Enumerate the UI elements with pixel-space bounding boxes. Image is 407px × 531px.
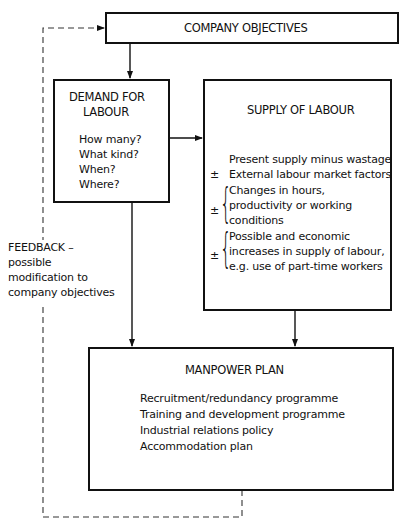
plus-minus-sign: ± <box>210 168 219 181</box>
demand-question: When? <box>79 162 115 177</box>
manpower-plan-item: Industrial relations policy <box>140 423 273 438</box>
manpower-plan-item: Accommodation plan <box>140 439 253 454</box>
manpower-plan-item: Training and development programme <box>140 407 345 422</box>
feedback-label: FEEDBACK – possible modification to comp… <box>8 240 128 306</box>
supply-line-present: Present supply minus wastage <box>229 152 391 167</box>
feedback-line: modification to <box>8 270 88 285</box>
company-objectives-title: COMPANY OBJECTIVES <box>184 21 307 36</box>
demand-question: Where? <box>79 177 119 192</box>
manpower-plan-title: MANPOWER PLAN <box>185 363 284 378</box>
company-objectives-box: COMPANY OBJECTIVES <box>105 12 399 44</box>
plus-minus-sign: ± <box>210 249 219 262</box>
plus-minus-sign: ± <box>210 204 219 217</box>
manpower-plan-box: MANPOWER PLAN Recruitment/redundancy pro… <box>88 347 394 491</box>
supply-title: SUPPLY OF LABOUR <box>247 103 354 118</box>
demand-question: What kind? <box>79 147 139 162</box>
feedback-line: company objectives <box>8 285 115 300</box>
demand-title-line1: DEMAND FOR <box>69 90 145 105</box>
supply-line-external: External labour market factors <box>229 167 391 182</box>
demand-question: How many? <box>79 132 141 147</box>
supply-line-changes: conditions <box>229 213 284 228</box>
demand-title-line2: LABOUR <box>83 105 129 120</box>
supply-line-changes: Changes in hours, <box>229 183 325 198</box>
feedback-line: possible <box>8 255 51 270</box>
manpower-plan-item: Recruitment/redundancy programme <box>140 391 338 406</box>
feedback-line: FEEDBACK – <box>8 240 73 255</box>
supply-line-possible: e.g. use of part-time workers <box>229 259 383 274</box>
supply-line-possible: increases in supply of labour, <box>229 244 384 259</box>
supply-of-labour-box: SUPPLY OF LABOUR Present supply minus wa… <box>203 79 392 311</box>
supply-line-possible: Possible and economic <box>229 229 350 244</box>
demand-for-labour-box: DEMAND FOR LABOUR How many? What kind? W… <box>53 79 170 203</box>
supply-line-changes: productivity or working <box>229 198 352 213</box>
